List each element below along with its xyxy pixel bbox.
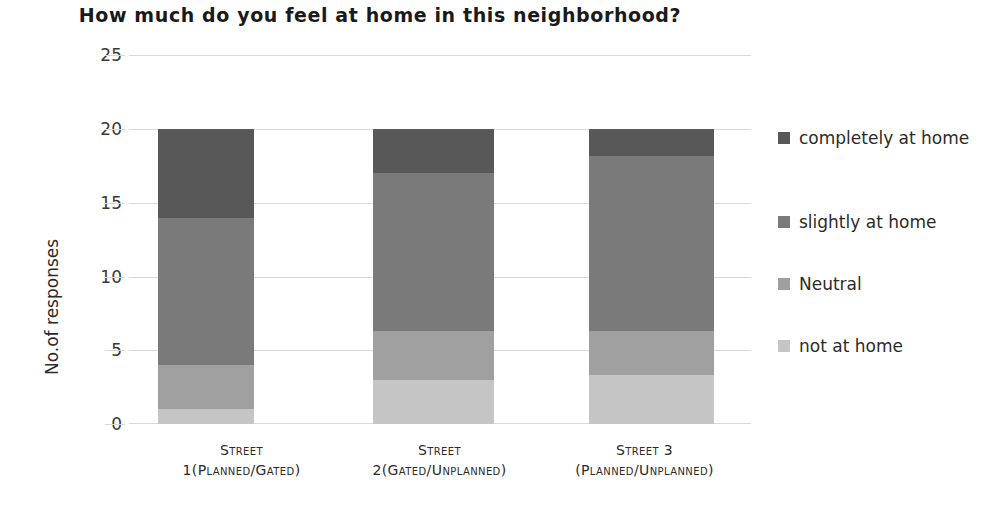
x-label-street-3: Street 3 (Planned/Unplanned)	[527, 440, 762, 481]
tick-mark-25	[105, 55, 125, 56]
tick-mark-10	[105, 277, 125, 278]
x-axis-tick-labels: Street 1(Planned/Gated) Street 2(Gated/U…	[129, 440, 751, 500]
bar-segment-slightly-at-home	[158, 218, 254, 366]
bar-segment-completely-at-home	[373, 129, 494, 173]
chart-title: How much do you feel at home in this nei…	[0, 4, 760, 26]
legend-item-completely-at-home[interactable]: completely at home	[778, 128, 969, 149]
x-label-line1: Street	[129, 440, 354, 460]
legend-label: slightly at home	[799, 212, 936, 233]
bar-segment-not-at-home	[589, 375, 714, 424]
bar-segment-not-at-home	[158, 409, 254, 424]
legend-label: Neutral	[799, 274, 862, 295]
bar-segment-slightly-at-home	[589, 156, 714, 332]
legend-label: not at home	[799, 336, 903, 357]
x-label-street-1: Street 1(Planned/Gated)	[129, 440, 354, 481]
tick-mark-0	[105, 424, 125, 425]
legend-item-Neutral[interactable]: Neutral	[778, 274, 862, 295]
bar-segment-not-at-home	[373, 380, 494, 424]
tick-mark-5	[105, 350, 125, 351]
bar-segment-Neutral	[373, 331, 494, 380]
bar-segment-slightly-at-home	[373, 173, 494, 331]
bar-2	[373, 129, 494, 424]
x-label-line1: Street	[327, 440, 552, 460]
bar-segment-completely-at-home	[589, 129, 714, 156]
x-label-street-2: Street 2(Gated/Unplanned)	[327, 440, 552, 481]
bar-segment-Neutral	[589, 331, 714, 375]
tick-mark-20	[105, 129, 125, 130]
legend-swatch-icon	[778, 132, 790, 144]
tick-mark-15	[105, 203, 125, 204]
x-label-line2: 2(Gated/Unplanned)	[327, 460, 552, 480]
gridline-25	[129, 55, 751, 56]
x-label-line1: Street 3	[527, 440, 762, 460]
legend-item-not-at-home[interactable]: not at home	[778, 336, 903, 357]
x-label-line2: 1(Planned/Gated)	[129, 460, 354, 480]
bar-3	[589, 129, 714, 424]
x-label-line2: (Planned/Unplanned)	[527, 460, 762, 480]
stacked-bar-chart: How much do you feel at home in this nei…	[0, 0, 1001, 507]
legend-swatch-icon	[778, 340, 790, 352]
y-axis-title: No.of responses	[42, 175, 62, 375]
legend-swatch-icon	[778, 216, 790, 228]
plot-area	[129, 129, 751, 424]
bar-segment-completely-at-home	[158, 129, 254, 218]
legend-item-slightly-at-home[interactable]: slightly at home	[778, 212, 936, 233]
bar-1	[158, 129, 254, 424]
bar-segment-Neutral	[158, 365, 254, 409]
legend-label: completely at home	[799, 128, 969, 149]
legend-swatch-icon	[778, 278, 790, 290]
